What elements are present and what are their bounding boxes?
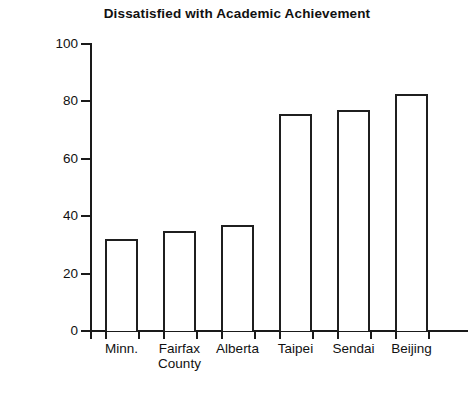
y-tick-80: 80	[0, 94, 78, 108]
bar	[221, 225, 254, 331]
x-tick-bar-end	[254, 331, 256, 339]
y-tick-0: 0	[0, 324, 78, 338]
y-tick-label: 20	[34, 267, 78, 281]
y-tick-40: 40	[0, 209, 78, 223]
y-tick-label: 100	[34, 37, 78, 51]
bar-chart: Dissatisfied with Academic Achievement P…	[0, 0, 474, 394]
y-tick-label: 80	[34, 94, 78, 108]
x-tick-bar-end	[370, 331, 372, 339]
x-tick-bar-start	[337, 331, 339, 339]
chart-title: Dissatisfied with Academic Achievement	[0, 6, 474, 21]
x-category-label: Beijing	[367, 341, 457, 356]
plot-area	[90, 44, 468, 331]
x-tick-bar-start	[163, 331, 165, 339]
x-tick-bar-start	[395, 331, 397, 339]
y-tick-20: 20	[0, 267, 78, 281]
y-tick-60: 60	[0, 152, 78, 166]
x-tick-bar-start	[279, 331, 281, 339]
bar	[105, 239, 138, 331]
bar	[337, 110, 370, 331]
x-tick-bar-end	[196, 331, 198, 339]
x-tick-bar-end	[312, 331, 314, 339]
x-tick-bar-end	[138, 331, 140, 339]
y-tick-label: 60	[34, 152, 78, 166]
y-tick-label: 40	[34, 209, 78, 223]
bar	[395, 94, 428, 331]
x-tick-origin	[90, 331, 92, 339]
bar	[163, 231, 196, 331]
bar	[279, 114, 312, 331]
x-tick-bar-start	[105, 331, 107, 339]
y-tick-100: 100	[0, 37, 78, 51]
y-tick-label: 0	[34, 324, 78, 338]
x-tick-bar-end	[428, 331, 430, 339]
x-tick-bar-start	[221, 331, 223, 339]
